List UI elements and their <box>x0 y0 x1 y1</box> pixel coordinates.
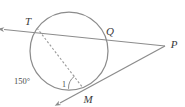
tangent-line-through-m-to-p <box>60 46 165 103</box>
point-label-q: Q <box>106 25 114 37</box>
angle-1-arc <box>68 76 74 89</box>
secant-line-through-t-q-to-p <box>4 30 165 47</box>
geometry-figure-container: T Q M P 150° 1 <box>0 0 185 107</box>
angle-number-label-1: 1 <box>62 80 66 89</box>
point-label-t: T <box>25 15 32 27</box>
arc-measure-label-150: 150° <box>14 76 30 86</box>
geometry-figure-canvas: T Q M P 150° 1 <box>0 0 185 107</box>
point-label-p: P <box>170 38 178 50</box>
point-label-m: M <box>82 93 93 105</box>
circle-shape <box>30 12 108 90</box>
